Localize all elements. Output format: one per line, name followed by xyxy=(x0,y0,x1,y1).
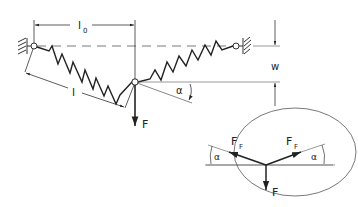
ff-right-arrow xyxy=(266,152,301,165)
alpha-arc xyxy=(189,84,191,100)
alpha-reference-line xyxy=(137,83,192,103)
left-fixed-support-icon xyxy=(18,38,31,54)
l0-label: l xyxy=(78,19,81,32)
free-body-boundary xyxy=(234,108,356,196)
l-label: l xyxy=(72,86,75,99)
right-spring xyxy=(138,41,233,82)
left-pivot xyxy=(31,43,37,49)
ff-right-subscript: F xyxy=(294,143,298,151)
free-force-label: F xyxy=(272,186,278,199)
ff-left-subscript: F xyxy=(239,143,243,151)
alpha-label: α xyxy=(176,85,183,96)
alpha-left-arc xyxy=(210,146,212,164)
alpha-left-label: α xyxy=(214,152,220,162)
l0-subscript: 0 xyxy=(83,27,87,35)
center-node xyxy=(132,79,138,85)
left-spring xyxy=(37,46,132,104)
right-pivot xyxy=(233,43,239,49)
force-label: F xyxy=(142,118,148,131)
ff-right-label: F xyxy=(286,135,292,148)
right-fixed-support-icon xyxy=(239,37,251,54)
alpha-right-label: α xyxy=(311,152,317,162)
alpha-right-arc xyxy=(322,145,325,164)
ff-left-label: F xyxy=(231,135,237,148)
spring-diagram: l 0 l w α F F F F F F α α xyxy=(0,0,358,207)
w-label: w xyxy=(271,61,279,72)
